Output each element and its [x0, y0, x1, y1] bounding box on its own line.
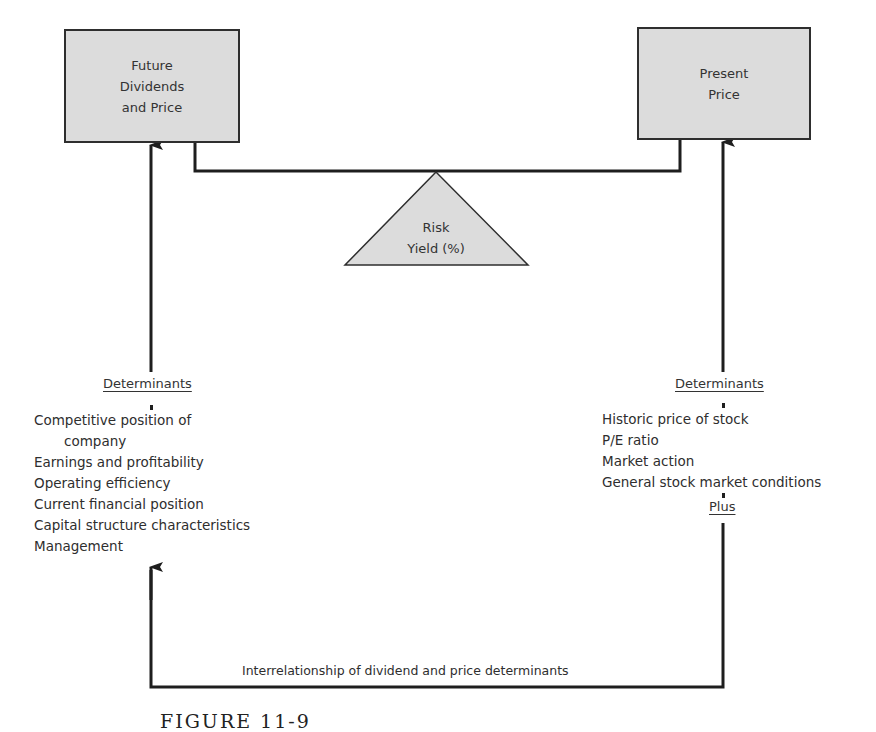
- figure-caption: FIGURE 11-9: [160, 710, 311, 732]
- future-dividends-label: Future Dividends and Price: [120, 55, 184, 118]
- left-determinant-item: Competitive position of: [34, 410, 250, 431]
- balance-beam: [195, 139, 680, 171]
- right-determinant-item: Market action: [602, 451, 821, 472]
- left-determinant-item: Management: [34, 536, 250, 557]
- right-determinants-list: Historic price of stock P/E ratio Market…: [602, 409, 821, 493]
- left-determinants-heading: Determinants: [103, 376, 192, 391]
- right-determinants-heading: Determinants: [675, 376, 764, 391]
- plus-label: Plus: [709, 499, 735, 514]
- interrelationship-label: Interrelationship of dividend and price …: [242, 663, 569, 678]
- right-determinant-item: Historic price of stock: [602, 409, 821, 430]
- plus-top-dot: [722, 493, 725, 498]
- left-determinant-item: company: [34, 431, 250, 452]
- left-determinant-item: Operating efficiency: [34, 473, 250, 494]
- right-determinant-item: P/E ratio: [602, 430, 821, 451]
- left-determinant-item: Earnings and profitability: [34, 452, 250, 473]
- right-determinant-item: General stock market conditions: [602, 472, 821, 493]
- present-price-label: Present Price: [700, 63, 749, 105]
- left-determinant-item: Current financial position: [34, 494, 250, 515]
- left-determinant-item: Capital structure characteristics: [34, 515, 250, 536]
- left-determinants-list: Competitive position of company Earnings…: [34, 410, 250, 557]
- fulcrum-label: Risk Yield (%): [376, 217, 496, 259]
- future-dividends-box: Future Dividends and Price: [64, 29, 240, 143]
- present-price-box: Present Price: [637, 27, 811, 140]
- right-heading-dot: [722, 403, 725, 408]
